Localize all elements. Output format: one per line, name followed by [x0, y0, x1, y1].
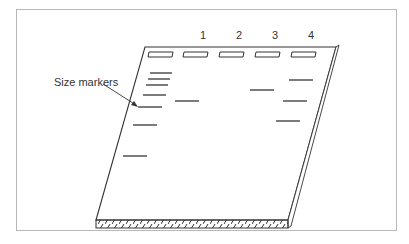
gel-slab: [96, 47, 336, 220]
well-markers: [148, 52, 173, 57]
size-markers-label: Size markers: [54, 76, 118, 88]
lane-label-1: 1: [200, 29, 206, 41]
lane-label-2: 2: [236, 29, 242, 41]
lane-label-4: 4: [308, 29, 314, 41]
well-lane-1: [183, 52, 208, 57]
well-lane-3: [255, 52, 280, 57]
lane-label-3: 3: [272, 29, 278, 41]
well-lane-4: [291, 52, 316, 57]
gel-front-edge: [96, 220, 288, 228]
well-lane-2: [219, 52, 244, 57]
